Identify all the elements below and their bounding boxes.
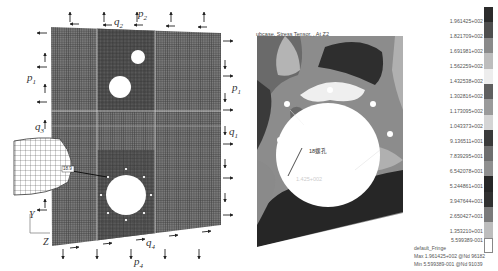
contour-plot-title: ubcase, Stress Tensor, , At Z2 bbox=[256, 31, 329, 37]
load-label-q3: q3 bbox=[35, 121, 44, 137]
legend-value: 2.650427+001 bbox=[450, 213, 483, 219]
max-value-line: Max 1.961425+002 @Nd 96182 bbox=[414, 253, 485, 259]
legend-value: 5.244861+001 bbox=[450, 183, 483, 189]
legend-value: 1.562259+002 bbox=[450, 63, 483, 69]
color-bar-segment bbox=[484, 130, 493, 145]
legend-value: 1.353210+001 bbox=[450, 228, 483, 234]
legend-value: 6.542078+001 bbox=[450, 168, 483, 174]
load-label-p1-right: p1 bbox=[232, 82, 241, 98]
color-bar-segment bbox=[484, 7, 493, 22]
color-bar-segment bbox=[484, 84, 493, 99]
legend-value: 1.302816+002 bbox=[450, 93, 483, 99]
min-value-line: Min 5.599389-001 @Nd 91039 bbox=[414, 261, 482, 267]
load-label-q2: q2 bbox=[114, 16, 123, 32]
stress-contour bbox=[257, 36, 403, 247]
load-label-p1-left: p1 bbox=[27, 72, 36, 88]
legend-value: 5.599389-001 bbox=[451, 237, 483, 243]
hole-annotation: 18螺孔 bbox=[309, 147, 327, 155]
load-label-q4: q4 bbox=[146, 237, 155, 253]
color-bar-segment bbox=[484, 161, 493, 176]
color-bar bbox=[484, 7, 493, 253]
color-bar-segment bbox=[484, 99, 493, 114]
color-bar-segment bbox=[484, 115, 493, 130]
load-label-q1: q1 bbox=[229, 126, 238, 142]
figure-canvas bbox=[0, 0, 498, 271]
legend-value: 1.432538+002 bbox=[450, 78, 483, 84]
value-annotation: 1.425+002 bbox=[296, 176, 322, 182]
axis-label-z: Z bbox=[43, 236, 49, 247]
color-bar-segment bbox=[484, 38, 493, 53]
color-bar-segment bbox=[484, 146, 493, 161]
mesh-plate bbox=[51, 27, 221, 246]
load-label-p2: p2 bbox=[138, 8, 147, 24]
legend-value: 1.173095+002 bbox=[450, 108, 483, 114]
legend-value: 3.947644+001 bbox=[450, 198, 483, 204]
legend-value: 1.821709+002 bbox=[450, 33, 483, 39]
color-bar-segment bbox=[484, 192, 493, 207]
legend-value: 1.043373+002 bbox=[450, 123, 483, 129]
color-bar-segment bbox=[484, 53, 493, 68]
color-bar-segment bbox=[484, 238, 493, 253]
legend-value: 7.839295+001 bbox=[450, 153, 483, 159]
legend-value: 9.136511+001 bbox=[450, 138, 483, 144]
legend-value: 1.961425+002 bbox=[450, 18, 483, 24]
load-label-p4: p4 bbox=[134, 256, 143, 271]
fringe-name: default_Fringe bbox=[414, 245, 446, 251]
axis-label-y: Y bbox=[29, 209, 35, 220]
color-bar-segment bbox=[484, 69, 493, 84]
detail-dimension-label: 18.9 bbox=[63, 166, 72, 171]
color-bar-segment bbox=[484, 22, 493, 37]
color-bar-segment bbox=[484, 222, 493, 237]
legend-value: 1.691981+002 bbox=[450, 48, 483, 54]
color-bar-segment bbox=[484, 207, 493, 222]
color-bar-segment bbox=[484, 176, 493, 191]
